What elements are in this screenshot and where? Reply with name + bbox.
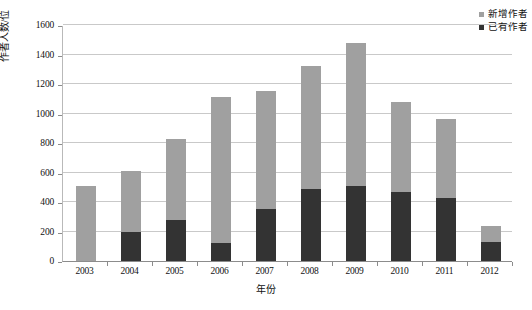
bar-segment-existing-authors bbox=[256, 209, 276, 261]
y-tick-label: 200 bbox=[12, 227, 54, 237]
bar-segment-existing-authors bbox=[391, 192, 411, 261]
bar-segment-existing-authors bbox=[481, 242, 501, 261]
bar-segment-new-authors bbox=[166, 139, 186, 220]
x-tick-label-2009: 2009 bbox=[332, 266, 378, 276]
bar-segment-new-authors bbox=[301, 66, 321, 189]
bar-segment-existing-authors bbox=[211, 243, 231, 261]
gridline bbox=[63, 83, 512, 84]
x-tick-label-2011: 2011 bbox=[422, 266, 468, 276]
bar-segment-new-authors bbox=[346, 43, 366, 186]
bar-2008 bbox=[301, 66, 321, 261]
legend-label-new-authors: 新增作者 bbox=[488, 8, 528, 21]
bar-2011 bbox=[436, 119, 456, 261]
bar-segment-existing-authors bbox=[121, 232, 141, 262]
bar-2007 bbox=[256, 91, 276, 261]
bar-segment-new-authors bbox=[481, 226, 501, 242]
y-axis-title: 作者人数/位 bbox=[0, 0, 11, 96]
bar-2006 bbox=[211, 97, 231, 261]
bar-segment-existing-authors bbox=[436, 198, 456, 261]
bar-segment-new-authors bbox=[121, 171, 141, 231]
x-tick-label-2005: 2005 bbox=[152, 266, 198, 276]
y-tick-label: 1400 bbox=[12, 50, 54, 60]
x-tick-label-2008: 2008 bbox=[287, 266, 333, 276]
bar-segment-existing-authors bbox=[346, 186, 366, 261]
stacked-bar-chart: 新增作者 已有作者 作者人数/位 02004006008001000120014… bbox=[0, 0, 532, 310]
x-axis-title: 年份 bbox=[0, 281, 532, 296]
bar-segment-existing-authors bbox=[301, 189, 321, 261]
x-tick-label-2012: 2012 bbox=[467, 266, 513, 276]
bar-2005 bbox=[166, 139, 186, 261]
y-tick-label: 1600 bbox=[12, 20, 54, 30]
plot-area bbox=[62, 26, 512, 262]
y-tick-mark bbox=[58, 262, 62, 263]
y-tick-label: 0 bbox=[12, 256, 54, 266]
x-tick-label-2004: 2004 bbox=[107, 266, 153, 276]
gridline bbox=[63, 24, 512, 25]
bar-segment-existing-authors bbox=[166, 220, 186, 261]
y-tick-label: 1200 bbox=[12, 79, 54, 89]
y-tick-label: 400 bbox=[12, 197, 54, 207]
y-tick-label: 600 bbox=[12, 168, 54, 178]
y-tick-label: 1000 bbox=[12, 109, 54, 119]
bar-2010 bbox=[391, 102, 411, 261]
gridline bbox=[63, 113, 512, 114]
x-tick-label-2010: 2010 bbox=[377, 266, 423, 276]
bar-segment-new-authors bbox=[211, 97, 231, 243]
x-tick-label-2007: 2007 bbox=[242, 266, 288, 276]
bar-segment-new-authors bbox=[256, 91, 276, 208]
legend-item-new-authors: 新增作者 bbox=[479, 8, 528, 21]
gridline bbox=[63, 54, 512, 55]
y-tick-label: 800 bbox=[12, 138, 54, 148]
bar-segment-new-authors bbox=[436, 119, 456, 197]
bar-2004 bbox=[121, 171, 141, 261]
x-tick-label-2003: 2003 bbox=[62, 266, 108, 276]
legend-swatch-new-authors bbox=[479, 12, 484, 17]
bar-2012 bbox=[481, 226, 501, 261]
bar-2009 bbox=[346, 43, 366, 261]
bar-2003 bbox=[76, 186, 96, 261]
bar-segment-new-authors bbox=[391, 102, 411, 192]
x-tick-mark bbox=[512, 262, 513, 266]
bar-segment-new-authors bbox=[76, 186, 96, 261]
x-tick-label-2006: 2006 bbox=[197, 266, 243, 276]
